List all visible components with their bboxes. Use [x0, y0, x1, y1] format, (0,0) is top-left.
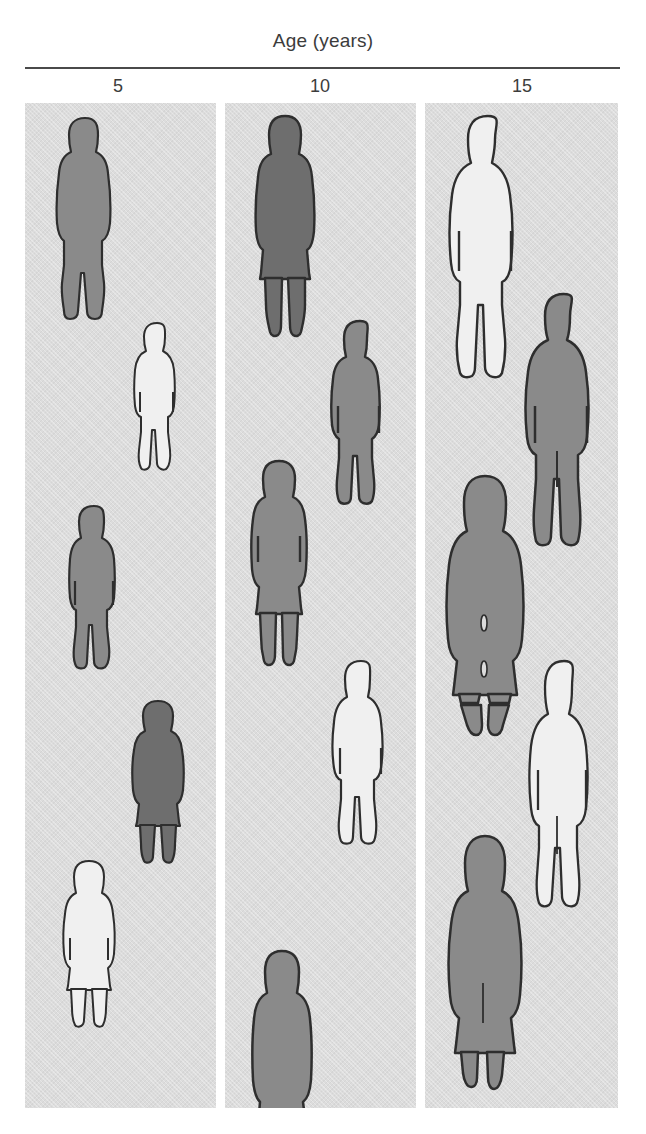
girl-silhouette-icon: [249, 113, 321, 341]
girl-silhouette-icon: [127, 698, 189, 866]
page-title: Age (years): [0, 30, 646, 52]
figure-c3-f1-man: [445, 113, 531, 383]
boy-silhouette-icon: [325, 318, 395, 506]
figure-c2-f1-girl: [249, 113, 321, 341]
tick-label-age-10: 10: [290, 76, 350, 97]
figure-c3-f3-woman: [443, 473, 527, 741]
figure-c1-f2-boy: [128, 320, 186, 472]
girl-silhouette-icon: [247, 948, 317, 1108]
figure-c3-f2-man: [521, 291, 607, 549]
panel-age-5: [25, 103, 216, 1108]
axis-rule: [25, 67, 620, 69]
boy-silhouette-icon: [63, 503, 125, 671]
panel-age-15: [425, 103, 618, 1108]
figure-c2-f3-girl: [245, 458, 313, 668]
figure-c2-f5-girl: [247, 948, 317, 1108]
figure-c3-f4-woman: [525, 658, 603, 908]
woman-silhouette-icon: [445, 833, 525, 1095]
tick-label-age-15: 15: [492, 76, 552, 97]
woman-silhouette-icon: [525, 658, 603, 908]
girl-silhouette-icon: [50, 115, 120, 325]
boy-silhouette-icon: [128, 320, 186, 472]
figure-root: Age (years) 5 10 15: [0, 0, 646, 1134]
figure-c1-f5-girl: [57, 858, 121, 1030]
figure-c1-f1-girl: [50, 115, 120, 325]
girl-silhouette-icon: [57, 858, 121, 1030]
figure-c1-f4-girl: [127, 698, 189, 866]
figure-c2-f4-boy: [328, 658, 394, 846]
tick-label-age-5: 5: [88, 76, 148, 97]
figure-c1-f3-boy: [63, 503, 125, 671]
man-silhouette-icon: [521, 291, 607, 549]
woman-silhouette-icon: [443, 473, 527, 741]
man-silhouette-icon: [445, 113, 531, 383]
panel-age-10: [225, 103, 416, 1108]
girl-silhouette-icon: [245, 458, 313, 668]
figure-c3-f5-woman: [445, 833, 525, 1095]
boy-silhouette-icon: [328, 658, 394, 846]
figure-c2-f2-boy: [325, 318, 395, 506]
